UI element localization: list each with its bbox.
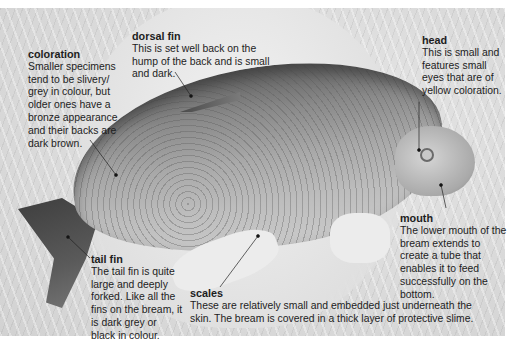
label-dorsal-fin-text: This is set well back on the hump of the… [132, 43, 272, 81]
label-head-text: This is small and features small eyes th… [422, 47, 502, 98]
label-scales-text: These are relatively small and embedded … [190, 300, 490, 326]
fish-head [395, 126, 475, 196]
label-tail-fin-title: tail fin [91, 253, 183, 266]
label-head-title: head [422, 34, 502, 47]
label-dorsal-fin-title: dorsal fin [132, 30, 272, 43]
label-mouth-title: mouth [400, 212, 512, 225]
label-tail-fin: tail fin The tail fin is quite large and… [91, 253, 183, 343]
label-dorsal-fin: dorsal fin This is set well back on the … [132, 30, 272, 81]
label-scales: scales These are relatively small and em… [190, 287, 490, 325]
label-coloration: coloration Smaller specimens tend to be … [28, 48, 123, 150]
fish-eye [420, 148, 434, 162]
label-coloration-text: Smaller specimens tend to be slivery/ gr… [28, 61, 123, 151]
label-head: head This is small and features small ey… [422, 34, 502, 98]
label-tail-fin-text: The tail fin is quite large and deeply f… [91, 266, 183, 343]
label-scales-title: scales [190, 287, 490, 300]
angler-hand-right [330, 213, 390, 263]
label-coloration-title: coloration [28, 48, 123, 61]
